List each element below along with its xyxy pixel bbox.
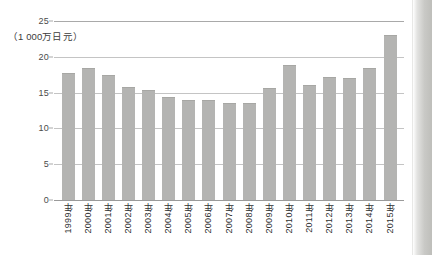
y-tick-label-25: 25 [39, 16, 49, 26]
x-axis-tick-label: 2014年 [365, 203, 374, 234]
x-axis-tick-label: 2004年 [164, 203, 173, 234]
bar-slot [219, 21, 239, 200]
y-tick-label-10: 10 [39, 123, 49, 133]
bar[interactable] [102, 75, 115, 200]
x-axis-tick-label: 2000年 [84, 203, 93, 234]
y-tick-mark-15 [49, 92, 53, 93]
bar[interactable] [162, 97, 175, 200]
x-axis-tick-label: 2005年 [184, 203, 193, 234]
bar[interactable] [223, 103, 236, 200]
x-label-slot: 2001年 [98, 203, 118, 253]
bar-slot [340, 21, 360, 200]
bar-slot [259, 21, 279, 200]
y-tick-label-15: 15 [39, 88, 49, 98]
bar-slot [118, 21, 138, 200]
bar-slot [300, 21, 320, 200]
bar[interactable] [343, 78, 356, 200]
gridline-0 [54, 200, 404, 201]
bar[interactable] [384, 35, 397, 200]
x-label-slot: 2015年 [380, 203, 400, 253]
y-tick-mark-20 [49, 56, 53, 57]
bar-slot [199, 21, 219, 200]
x-label-slot: 2011年 [300, 203, 320, 253]
x-label-slot: 1999年 [58, 203, 78, 253]
x-label-slot: 2008年 [239, 203, 259, 253]
page-edge-shadow [413, 0, 432, 255]
x-axis-tick-label: 2015年 [386, 203, 395, 234]
x-label-slot: 2002年 [118, 203, 138, 253]
bar-slot [98, 21, 118, 200]
bar-series [54, 21, 404, 200]
bar-slot [78, 21, 98, 200]
x-axis-tick-label: 2011年 [305, 203, 314, 233]
y-tick-mark-5 [49, 164, 53, 165]
x-label-slot: 2003年 [139, 203, 159, 253]
x-label-slot: 2012年 [320, 203, 340, 253]
y-tick-label-20: 20 [39, 52, 49, 62]
bar[interactable] [202, 100, 215, 200]
x-axis-tick-label: 2012年 [325, 203, 334, 234]
bar-slot [139, 21, 159, 200]
x-axis-tick-label: 1999年 [64, 203, 73, 234]
x-label-slot: 2000年 [78, 203, 98, 253]
x-axis-tick-label: 2003年 [144, 203, 153, 234]
x-axis-tick-label: 2007年 [225, 203, 234, 234]
x-axis-tick-label: 2008年 [245, 203, 254, 234]
bar-slot [179, 21, 199, 200]
x-axis-tick-label: 2002年 [124, 203, 133, 234]
x-label-slot: 2006年 [199, 203, 219, 253]
bar[interactable] [303, 85, 316, 200]
x-label-slot: 2013年 [340, 203, 360, 253]
x-label-slot: 2005年 [179, 203, 199, 253]
bar-slot [360, 21, 380, 200]
bar[interactable] [283, 65, 296, 200]
x-axis-tick-label: 2006年 [204, 203, 213, 234]
x-label-slot: 2009年 [259, 203, 279, 253]
plot-area: 0510152025 [54, 21, 404, 200]
bar[interactable] [363, 68, 376, 200]
x-label-slot: 2007年 [219, 203, 239, 253]
bar-slot [239, 21, 259, 200]
bar-slot [279, 21, 299, 200]
bar[interactable] [182, 100, 195, 200]
x-axis-tick-label: 2009年 [265, 203, 274, 234]
x-axis-tick-label: 2010年 [285, 203, 294, 234]
page-canvas: （1 000万日元） 0510152025 1999年2000年2001年200… [0, 0, 432, 255]
x-label-slot: 2010年 [279, 203, 299, 253]
y-tick-mark-25 [49, 21, 53, 22]
y-tick-label-5: 5 [44, 159, 49, 169]
x-axis-tick-label: 2001年 [104, 203, 113, 234]
bar[interactable] [243, 103, 256, 200]
x-axis-labels: 1999年2000年2001年2002年2003年2004年2005年2006年… [54, 203, 404, 253]
bar-slot [320, 21, 340, 200]
y-tick-mark-0 [49, 200, 53, 201]
bar[interactable] [122, 87, 135, 200]
bar[interactable] [323, 77, 336, 200]
x-label-slot: 2004年 [159, 203, 179, 253]
bar-slot [58, 21, 78, 200]
bar-slot [159, 21, 179, 200]
bar-chart: （1 000万日元） 0510152025 1999年2000年2001年200… [0, 0, 413, 255]
x-axis-tick-label: 2013年 [345, 203, 354, 234]
bar[interactable] [263, 88, 276, 200]
bar[interactable] [142, 90, 155, 200]
y-tick-mark-10 [49, 128, 53, 129]
bar[interactable] [62, 73, 75, 200]
x-label-slot: 2014年 [360, 203, 380, 253]
y-tick-label-0: 0 [44, 195, 49, 205]
bar-slot [380, 21, 400, 200]
bar[interactable] [82, 68, 95, 200]
